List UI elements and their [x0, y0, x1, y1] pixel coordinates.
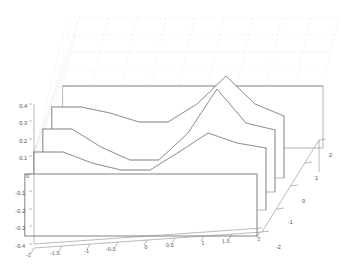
x-tick-2: -1 [84, 244, 90, 254]
z-tick-3: 0.1 [19, 155, 32, 161]
x-tick-3: -0.5 [106, 242, 118, 252]
z-tick-label: -0.1 [15, 190, 25, 196]
x-tick-label: 0 [144, 244, 148, 250]
figure-canvas: 0.40.30.20.10-0.1-0.2-0.3-0.4-2-1.5-1-0.… [0, 0, 357, 278]
y-tick-1: -1 [277, 208, 293, 225]
z-tick-label: 0.3 [19, 120, 27, 126]
z-tick-label: 0 [26, 173, 29, 179]
y-tick-label: 2 [329, 152, 332, 158]
x-tick-label: 1.5 [222, 238, 230, 245]
back-plane-grid [63, 18, 339, 86]
z-tick-label: 0.1 [19, 155, 27, 161]
z-tick-label: -0.2 [15, 208, 25, 214]
y-tick-0: -2 [262, 231, 281, 250]
x-tick-5: 0.5 [166, 238, 175, 248]
x-tick-8: 2 [257, 232, 261, 242]
y-tick-2: 0 [291, 185, 305, 204]
z-tick-0: 0.4 [19, 103, 32, 109]
y-tick-label: 1 [315, 175, 318, 181]
x-tick-4: 0 [144, 240, 148, 250]
z-tick-8: -0.4 [15, 243, 32, 249]
waterfall-plot-3d: 0.40.30.20.10-0.1-0.2-0.3-0.4-2-1.5-1-0.… [0, 0, 357, 278]
x-tick-1: -1.5 [50, 246, 62, 256]
z-tick-label: 0.2 [19, 138, 27, 144]
y-tick-label: -1 [288, 219, 293, 225]
y-tick-label: -2 [276, 244, 281, 250]
z-tick-1: 0.3 [19, 120, 32, 126]
z-tick-label: 0.4 [19, 103, 27, 109]
z-tick-2: 0.2 [19, 138, 32, 144]
x-tick-label: 0.5 [166, 242, 174, 249]
x-tick-label: -0.5 [106, 246, 116, 253]
x-tick-label: -1 [84, 248, 89, 254]
z-tick-label: -0.4 [15, 243, 25, 249]
x-tick-0: -2 [26, 248, 34, 258]
waterfall-ribbon-yneg2 [25, 174, 257, 236]
y-tick-3: 1 [305, 162, 318, 181]
x-tick-6: 1 [201, 236, 205, 246]
x-tick-label: -1.5 [50, 250, 60, 257]
z-tick-label: -0.3 [15, 225, 25, 231]
x-tick-label: 1 [201, 240, 205, 246]
y-tick-label: 0 [302, 198, 305, 204]
x-tick-label: 2 [257, 236, 261, 242]
x-tick-label: -2 [26, 252, 31, 258]
